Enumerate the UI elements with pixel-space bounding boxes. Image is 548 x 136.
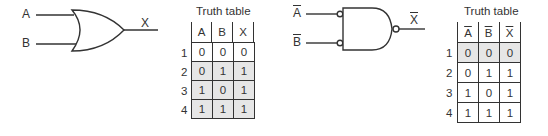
table-cell: 1: [191, 80, 213, 100]
nand-output-x-bar-label: X: [410, 13, 418, 27]
row-number: 4: [181, 104, 187, 116]
table-cell: 0: [478, 82, 500, 103]
or-input-b-label: B: [22, 36, 30, 50]
or-input-a-label: A: [22, 7, 30, 21]
table-title: Truth table: [464, 5, 519, 17]
table-cell: 1: [233, 80, 255, 100]
row-number: 3: [181, 85, 187, 97]
nand-input-b-bar-label: B: [293, 35, 301, 49]
row-number: 1: [446, 47, 452, 59]
table-cell: 1: [478, 62, 500, 83]
table-cell: 0: [233, 42, 255, 62]
row-number: 2: [181, 66, 187, 78]
table-cell: 0: [499, 42, 521, 63]
header-x-bar: X: [499, 22, 521, 43]
table-cell: 1: [457, 102, 479, 123]
table-cell: 0: [191, 61, 213, 81]
nand-input-a-bar-label: A: [293, 6, 301, 20]
row-number: 3: [446, 87, 452, 99]
row-number: 4: [446, 107, 452, 119]
table-cell: 1: [478, 102, 500, 123]
row-number: 1: [181, 47, 187, 59]
table-cell: 0: [212, 80, 234, 100]
table-cell: 1: [191, 99, 213, 119]
table-cell: 0: [457, 42, 479, 63]
table-cell: 0: [457, 62, 479, 83]
table-cell: 1: [499, 82, 521, 103]
header-a: A: [191, 22, 212, 42]
table-cell: 0: [478, 42, 500, 63]
table-title: Truth table: [196, 5, 251, 17]
table-cell: 1: [233, 99, 255, 119]
table-cell: 0: [191, 42, 213, 62]
or-gate-symbol: [36, 10, 158, 51]
nand-gate-symbol: [306, 8, 425, 50]
table-cell: 1: [457, 82, 479, 103]
row-number: 2: [446, 67, 452, 79]
table-cell: 1: [499, 62, 521, 83]
or-output-x-label: X: [141, 16, 149, 30]
header-x: X: [233, 22, 254, 42]
header-b-bar: B: [478, 22, 500, 43]
header-a-bar: A: [457, 22, 479, 43]
header-b: B: [212, 22, 233, 42]
table-cell: 1: [212, 61, 234, 81]
table-cell: 0: [212, 42, 234, 62]
table-cell: 1: [233, 61, 255, 81]
table-cell: 1: [212, 99, 234, 119]
table-cell: 1: [499, 102, 521, 123]
